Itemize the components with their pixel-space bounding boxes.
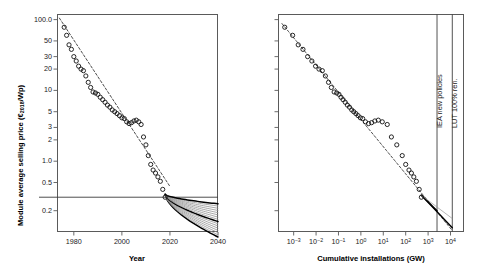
right-plot-canvas	[248, 0, 480, 274]
left-x-tick-label: 2020	[162, 238, 178, 245]
right-x-tick-label: 10−2	[309, 238, 323, 245]
left-y-tick-label: 1.0	[10, 158, 52, 165]
left-y-tick-label: 10	[10, 87, 52, 94]
left-y-tick-label: 30	[10, 53, 52, 60]
right-x-tick-label: 103	[423, 238, 434, 245]
right-x-tick-label: 101	[378, 238, 389, 245]
right-x-tick-label: 102	[400, 238, 411, 245]
left-y-tick-label: 5	[10, 108, 52, 115]
figure-container: Module average selling price (€2018/Wp) …	[0, 0, 480, 274]
right-x-tick-label: 10−3	[287, 238, 301, 245]
left-y-tick-label: 0.5	[10, 179, 52, 186]
vertical-marker-label-lut-100-renewable: LUT 100% ren.	[450, 78, 459, 128]
left-y-tick-label: 50	[10, 37, 52, 44]
left-x-tick-label: 2040	[210, 238, 226, 245]
panel-left-year-price: Module average selling price (€2018/Wp) …	[0, 0, 248, 274]
vertical-marker-label-iea-new-policies: IEA new policies	[435, 74, 444, 128]
left-y-tick-label: 2	[10, 136, 52, 143]
right-x-tick-label: 100	[355, 238, 366, 245]
right-x-tick-label: 10−1	[332, 238, 346, 245]
left-x-tick-label: 1980	[66, 238, 82, 245]
left-y-tick-label: 0.2	[10, 207, 52, 214]
right-x-tick-label: 104	[445, 238, 456, 245]
left-y-tick-label: 100.0	[10, 16, 52, 23]
left-y-tick-label: 20	[10, 65, 52, 72]
panel-right-cumulative-price: Cumulative installations (GW) 10−310−210…	[248, 0, 480, 274]
left-x-tick-label: 2000	[114, 238, 130, 245]
left-y-tick-label: 3	[10, 124, 52, 131]
